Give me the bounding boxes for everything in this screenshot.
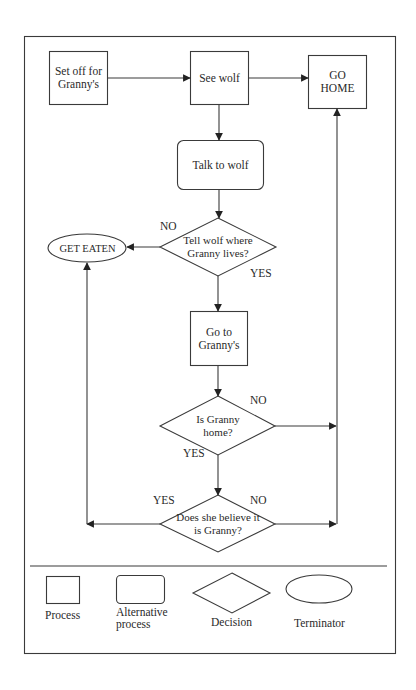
get-eaten-text: GET EATEN [59, 242, 115, 255]
legend-alt-process-line1: Alternative [116, 606, 168, 618]
go-home-label: GO HOME [308, 55, 367, 109]
go-to-grannys-label: Go to Granny's [190, 311, 248, 366]
edge-label-home-no: NO [250, 394, 267, 407]
go-home-line1: GO [329, 69, 346, 82]
see-wolf-text: See wolf [199, 72, 240, 85]
legend-terminator-shape [286, 575, 352, 603]
legend-alt-process-line2: process [116, 618, 168, 630]
tell-wolf-line1: Tell wolf where [183, 234, 252, 247]
legend-alt-process-shape [117, 576, 165, 604]
tell-wolf-label: Tell wolf where Granny lives? [160, 232, 276, 262]
edge-label-tell-yes: YES [250, 267, 272, 280]
edge-label-believe-yes: YES [153, 494, 175, 507]
is-granny-home-line2: home? [203, 426, 232, 439]
legend-alt-process-label: Alternative process [116, 606, 168, 630]
is-granny-home-label: Is Granny home? [160, 411, 276, 441]
see-wolf-label: See wolf [190, 51, 249, 105]
go-to-grannys-line2: Granny's [198, 339, 239, 352]
legend-process-shape [47, 577, 80, 604]
edge-label-believe-no: NO [250, 494, 267, 507]
tell-wolf-line2: Granny lives? [187, 247, 248, 260]
go-to-grannys-line1: Go to [206, 326, 232, 339]
set-off-line1: Set off for [55, 65, 102, 78]
set-off-label: Set off for Granny's [49, 51, 108, 105]
believe-line2: is Granny? [194, 524, 242, 537]
legend-decision-shape [193, 573, 270, 613]
talk-to-wolf-text: Talk to wolf [192, 159, 248, 172]
go-home-line2: HOME [321, 82, 355, 95]
set-off-line2: Granny's [58, 78, 99, 91]
legend-process-label: Process [45, 609, 80, 621]
get-eaten-label: GET EATEN [48, 234, 127, 262]
believe-line1: Does she believe it [176, 511, 259, 524]
is-granny-home-line1: Is Granny [196, 413, 240, 426]
talk-to-wolf-label: Talk to wolf [177, 140, 264, 190]
legend-terminator-label: Terminator [294, 617, 345, 629]
edge-label-home-yes: YES [183, 447, 205, 460]
edge-label-tell-no: NO [160, 220, 177, 233]
believe-label: Does she believe it is Granny? [160, 509, 276, 539]
legend-decision-label: Decision [211, 616, 252, 628]
